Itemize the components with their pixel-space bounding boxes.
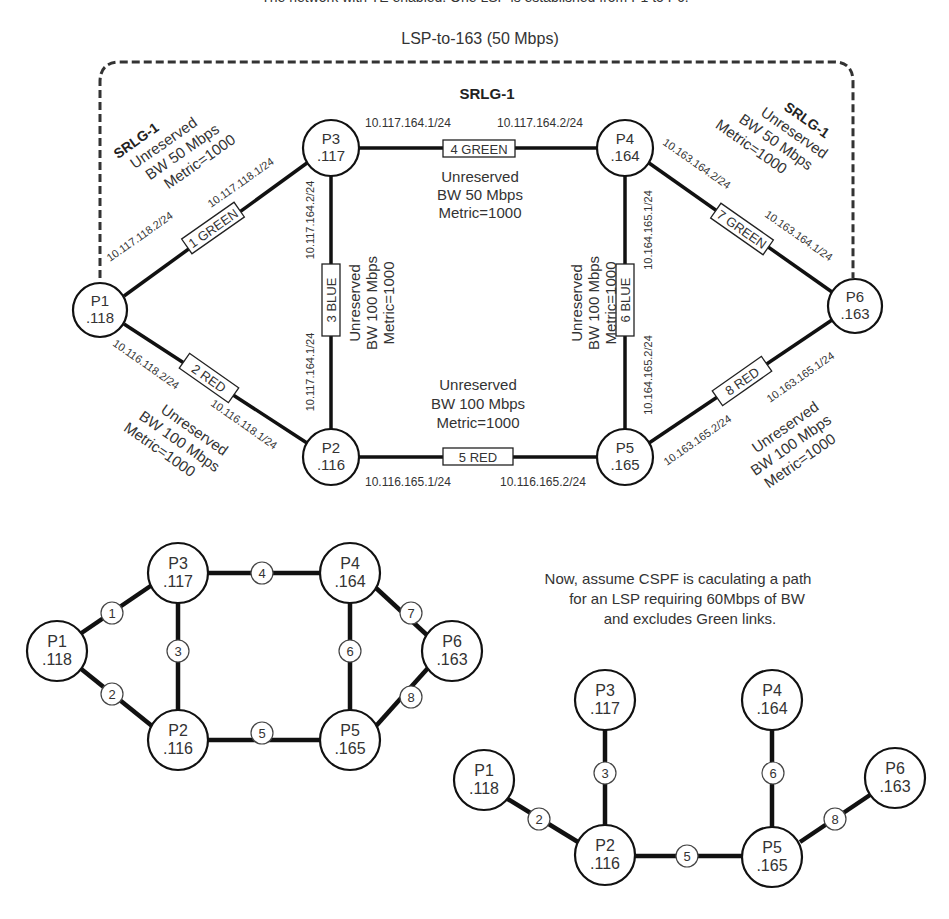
svg-text:1 GREEN: 1 GREEN	[186, 206, 241, 251]
svg-text:5: 5	[683, 849, 690, 864]
svg-text:P4: P4	[616, 130, 634, 147]
link-1-ip-b: 10.117.118.1/24	[205, 155, 276, 210]
cspf-node-p2: P2 .116	[575, 825, 635, 885]
svg-text:P6: P6	[442, 633, 462, 650]
link-4-ip-a: 10.117.164.1/24	[365, 116, 451, 130]
svg-text:BW 50 Mbps: BW 50 Mbps	[437, 186, 523, 203]
cspf-link-num-3: 3	[594, 762, 616, 784]
cspf-node-p6: P6 .163	[865, 748, 925, 808]
svg-text:1: 1	[108, 606, 115, 621]
svg-text:.116: .116	[590, 855, 620, 872]
svg-text:2: 2	[108, 687, 115, 702]
link-7-label: 7 GREEN	[711, 203, 774, 254]
svg-text:3 BLUE: 3 BLUE	[324, 277, 339, 322]
svg-text:4 GREEN: 4 GREEN	[450, 142, 507, 157]
svg-text:Now, assume CSPF is caculating: Now, assume CSPF is caculating a path	[545, 570, 812, 587]
link-num-3: 3	[167, 640, 189, 662]
cspf-link-num-8: 8	[824, 808, 846, 830]
simple-node-p3: P3 .117	[148, 543, 208, 603]
svg-text:.163: .163	[436, 651, 467, 668]
cspf-link-num-5: 5	[676, 845, 698, 867]
svg-text:3: 3	[174, 644, 181, 659]
link-4-attributes: Unreserved BW 50 Mbps Metric=1000	[437, 168, 523, 221]
svg-text:.165: .165	[756, 857, 787, 874]
node-p2: P2 .116	[303, 429, 359, 485]
svg-text:P3: P3	[322, 130, 340, 147]
cspf-node-p5: P5 .165	[742, 827, 802, 887]
svg-text:6 BLUE: 6 BLUE	[618, 277, 633, 322]
svg-text:3: 3	[601, 766, 608, 781]
link-7-ip-a: 10.163.164.2/24	[661, 136, 733, 191]
svg-text:and excludes Green links.: and excludes Green links.	[604, 610, 777, 627]
svg-text:P1: P1	[474, 762, 494, 779]
diagram-caption: The network with TE enabled. One LSP is …	[261, 0, 689, 5]
svg-text:.118: .118	[86, 309, 114, 326]
link-3-ip-a: 10.117.164.2/24	[304, 181, 316, 260]
link-1-ip-a: 10.117.118.2/24	[104, 209, 175, 264]
svg-text:5: 5	[258, 726, 265, 741]
svg-text:P6: P6	[846, 288, 864, 305]
svg-text:BW 100 Mbps: BW 100 Mbps	[585, 256, 602, 350]
svg-text:6: 6	[346, 644, 353, 659]
link-5-ip-a: 10.116.165.1/24	[365, 475, 451, 489]
link-4-ip-b: 10.117.164.2/24	[497, 116, 583, 130]
svg-text:.116: .116	[317, 456, 345, 473]
simple-node-p5: P5 .165	[320, 710, 380, 770]
svg-text:8: 8	[407, 690, 414, 705]
link-8-attributes: Unreserved BW 100 Mbps Metric=1000	[737, 396, 845, 493]
svg-text:Unreserved: Unreserved	[568, 264, 585, 342]
svg-text:Unreserved: Unreserved	[441, 168, 519, 185]
link-num-5: 5	[251, 722, 273, 744]
link-3-label: 3 BLUE	[322, 264, 340, 336]
cspf-link-num-2: 2	[528, 808, 550, 830]
simple-topology: 1 2 3 4 5 6 7 8 P1 .118 P3 .117 P2 .116 …	[27, 543, 482, 770]
svg-text:P4: P4	[762, 682, 782, 699]
svg-text:4: 4	[258, 566, 265, 581]
svg-text:P1: P1	[91, 292, 109, 309]
svg-text:.164: .164	[756, 700, 787, 717]
link-6-attributes: Unreserved BW 100 Mbps Metric=1000	[568, 256, 619, 350]
svg-text:6: 6	[769, 766, 776, 781]
link-1-attributes: SRLG-1 Unreserved BW 50 Mbps Metric=1000	[110, 87, 238, 206]
svg-text:BW 100 Mbps: BW 100 Mbps	[363, 256, 380, 350]
svg-text:Metric=1000: Metric=1000	[437, 414, 520, 431]
cspf-note: Now, assume CSPF is caculating a path fo…	[545, 570, 812, 627]
link-7-ip-b: 10.163.164.1/24	[763, 208, 835, 263]
svg-text:Unreserved: Unreserved	[439, 376, 517, 393]
link-1-label: 1 GREEN	[182, 202, 245, 253]
svg-text:P5: P5	[762, 839, 782, 856]
node-p6: P6 .163	[828, 279, 882, 333]
node-p1: P1 .118	[73, 283, 127, 337]
link-4-label: 4 GREEN	[443, 140, 515, 157]
svg-text:7: 7	[407, 606, 414, 621]
link-num-8: 8	[400, 686, 422, 708]
svg-text:P3: P3	[595, 682, 615, 699]
svg-text:P6: P6	[885, 760, 905, 777]
svg-text:.118: .118	[42, 651, 72, 668]
svg-text:BW 100 Mbps: BW 100 Mbps	[431, 395, 525, 412]
svg-text:7 GREEN: 7 GREEN	[714, 207, 769, 252]
network-diagram: The network with TE enabled. One LSP is …	[0, 0, 949, 919]
svg-text:5 RED: 5 RED	[459, 450, 497, 465]
node-p3: P3 .117	[303, 120, 359, 176]
svg-text:.117: .117	[317, 147, 345, 164]
svg-text:.118: .118	[469, 780, 499, 797]
svg-text:P5: P5	[340, 722, 360, 739]
link-8-ip-a: 10.163.165.2/24	[661, 412, 733, 467]
svg-text:P4: P4	[340, 555, 360, 572]
svg-text:.164: .164	[610, 147, 639, 164]
svg-text:P2: P2	[322, 439, 340, 456]
svg-text:.117: .117	[163, 573, 193, 590]
svg-text:.163: .163	[840, 305, 869, 322]
svg-text:.164: .164	[334, 573, 365, 590]
svg-text:Unreserved: Unreserved	[346, 264, 363, 342]
srlg-label-top: SRLG-1	[459, 85, 514, 102]
link-6-ip-a: 10.164.165.1/24	[642, 190, 654, 270]
cspf-node-p3: P3 .117	[575, 670, 635, 730]
link-2-ip-a: 10.116.118.2/24	[111, 337, 182, 392]
link-2-label: 2 RED	[179, 353, 238, 402]
cspf-node-p4: P4 .164	[742, 670, 802, 730]
link-num-4: 4	[251, 562, 273, 584]
simple-node-p1: P1 .118	[27, 621, 87, 681]
link-num-1: 1	[101, 602, 123, 624]
